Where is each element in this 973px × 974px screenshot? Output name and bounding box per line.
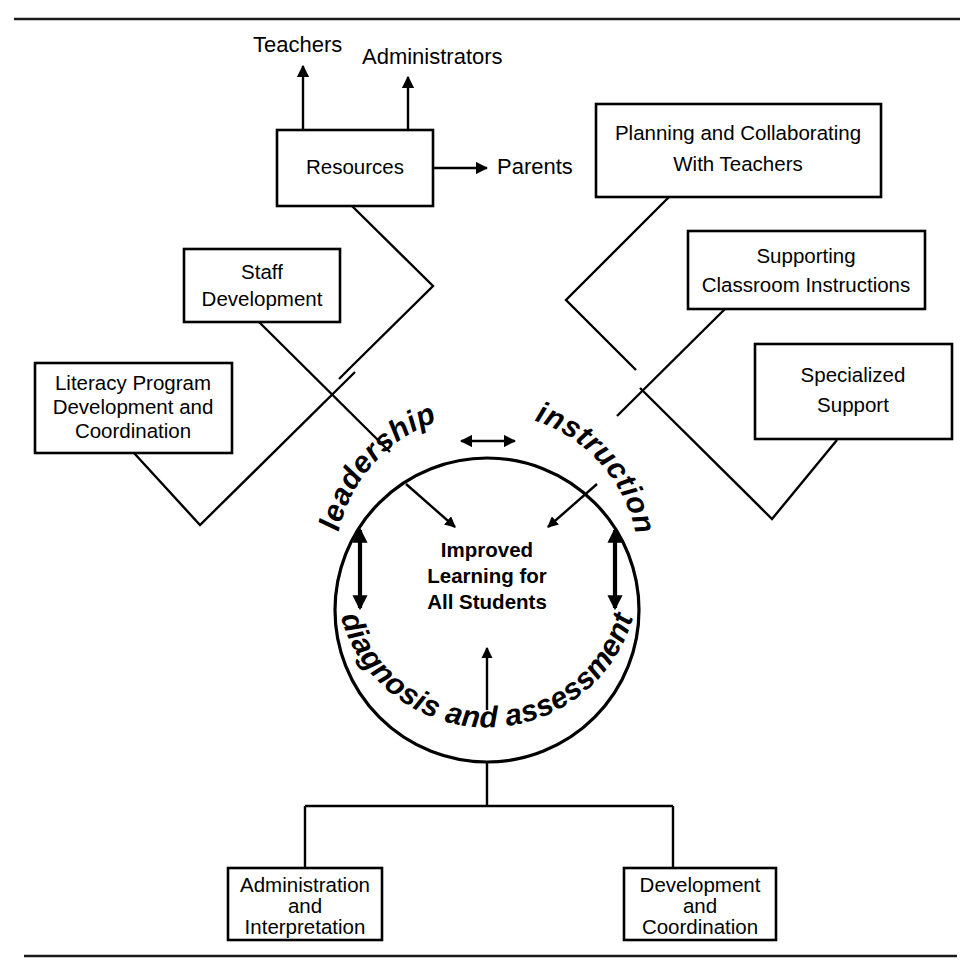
core-text-line-3: All Students <box>427 590 547 613</box>
diagram-canvas: leadership instruction diagnosis and ass… <box>0 0 973 974</box>
connector-planning-to-circle <box>566 197 669 370</box>
box-specialized-support-label-1: Specialized <box>801 363 906 386</box>
box-specialized-support[interactable] <box>755 344 952 439</box>
box-development-coordination-label-1: Development <box>640 873 761 896</box>
arrow-leadership-to-core <box>406 484 455 527</box>
connector-supporting-classroom-to-circle <box>617 308 726 416</box>
box-staff-development-label-2: Development <box>202 287 323 310</box>
connector-resources-to-circle <box>339 206 433 379</box>
connector-circle-to-bottom-bracket <box>305 762 673 869</box>
box-administration-interpretation-label-3: Interpretation <box>245 915 366 938</box>
core-text-line-2: Learning for <box>427 564 547 587</box>
box-literacy-program-label-2: Development and <box>53 395 214 418</box>
box-planning-collaborating-label-1: Planning and Collaborating <box>615 121 861 144</box>
box-supporting-classroom-label-1: Supporting <box>756 244 855 267</box>
arrow-instruction-to-core <box>548 484 597 527</box>
box-administration-interpretation-label-2: and <box>288 894 322 917</box>
label-parents: Parents <box>497 154 573 179</box>
box-planning-collaborating-label-2: With Teachers <box>673 152 803 175</box>
box-resources-label: Resources <box>306 155 404 178</box>
box-planning-collaborating[interactable] <box>596 104 881 197</box>
box-literacy-program-label-1: Literacy Program <box>55 371 211 394</box>
label-administrators: Administrators <box>362 44 503 69</box>
label-teachers: Teachers <box>253 32 342 57</box>
box-supporting-classroom[interactable] <box>688 231 925 309</box>
ring-label-instruction: instruction <box>532 395 662 537</box>
core-text-line-1: Improved <box>441 538 533 561</box>
box-development-coordination-label-3: Coordination <box>642 915 758 938</box>
ring-label-leadership: leadership <box>312 396 439 533</box>
box-development-coordination-label-2: and <box>683 894 717 917</box>
box-literacy-program-label-3: Coordination <box>75 419 191 442</box>
box-staff-development-label-1: Staff <box>241 260 283 283</box>
box-specialized-support-label-2: Support <box>817 393 889 416</box>
box-administration-interpretation-label-1: Administration <box>240 873 370 896</box>
box-supporting-classroom-label-2: Classroom Instructions <box>702 273 910 296</box>
